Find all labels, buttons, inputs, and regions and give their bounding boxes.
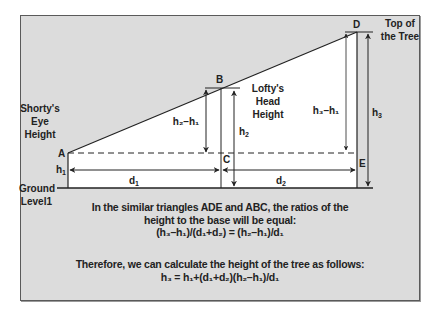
- lofty-label-line3: Height: [252, 109, 284, 120]
- ratio-equation: (h₃–h₁)/(d₁+d₂) = (h₂–h₁)/d₁: [20, 226, 420, 239]
- h2-minus-h1-label: h₂–h₁: [173, 116, 199, 127]
- tree-height-equation: h₃ = h₁+(d₁+d₂)(h₂–h₁)/d₁: [20, 271, 420, 284]
- point-b-label: B: [216, 74, 223, 85]
- caption-line1: In the similar triangles ADE and ABC, th…: [20, 201, 420, 214]
- point-d-label: D: [353, 19, 360, 30]
- caption-line2: height to the base will be equal:: [20, 214, 420, 227]
- shorty-label-line2: Eye: [31, 116, 49, 127]
- point-e-label: E: [359, 158, 366, 169]
- ground-label-line1: Ground: [19, 183, 55, 194]
- point-a-label: A: [58, 148, 65, 159]
- h3-minus-h1-label: h₃–h₁: [313, 105, 340, 116]
- shorty-label-line3: Height: [24, 129, 56, 140]
- shorty-label-line1: Shorty's: [20, 103, 60, 114]
- caption-tree-height: Therefore, we can calculate the height o…: [20, 258, 420, 283]
- point-c-label: C: [223, 154, 230, 165]
- lofty-label-line1: Lofty's: [252, 83, 285, 94]
- top-of-tree-line1: Top of: [385, 18, 415, 29]
- caption-line3: Therefore, we can calculate the height o…: [20, 258, 420, 271]
- h3-label: h3: [372, 107, 382, 119]
- lofty-label-line2: Head: [256, 96, 280, 107]
- caption-similar-triangles: In the similar triangles ADE and ABC, th…: [20, 201, 420, 239]
- top-of-tree-line2: the Tree: [381, 31, 420, 42]
- h1-label: h1: [56, 164, 66, 176]
